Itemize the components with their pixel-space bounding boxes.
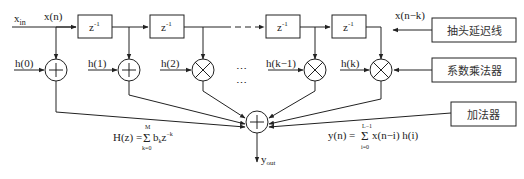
input-label: xin (14, 12, 26, 27)
coef-label-k: h(k) (341, 57, 360, 70)
formula-output: y(n) = L−1 Σ i=0 x(n−i) h(i) (328, 123, 419, 150)
svg-text:k=0: k=0 (142, 145, 151, 151)
ellipsis-2: ⋯ (236, 77, 247, 89)
svg-text:x(n−i) h(i): x(n−i) h(i) (372, 129, 419, 142)
output-label: yout (261, 153, 276, 167)
svg-text:Σ: Σ (361, 128, 369, 143)
svg-text:y(n) =: y(n) = (328, 129, 355, 142)
legend-tap-delay-line: 抽头延迟线 (447, 24, 502, 38)
fir-filter-diagram: xin x(n) x(n−k) z-1 z-1 z-1 z-1 h(0) h(1… (0, 0, 524, 179)
xn-label: x(n) (44, 10, 63, 23)
svg-text:H(z) =: H(z) = (113, 131, 142, 144)
svg-text:z-1: z-1 (343, 20, 354, 33)
coef-label-1: h(1) (88, 57, 107, 70)
svg-text:z-1: z-1 (161, 20, 172, 33)
ellipsis-1: ⋯ (236, 63, 247, 75)
legend-adder: 加法器 (467, 108, 500, 122)
svg-text:z-1: z-1 (277, 20, 288, 33)
coef-label-0: h(0) (15, 57, 34, 70)
svg-text:i=0: i=0 (361, 144, 369, 150)
formula-transfer-function: H(z) = M Σ k=0 bkz−k (113, 124, 173, 151)
svg-text:z-1: z-1 (89, 20, 100, 33)
xnk-label: x(n−k) (395, 9, 425, 22)
svg-text:bkz−k: bkz−k (153, 131, 173, 144)
svg-text:Σ: Σ (143, 130, 151, 145)
legend-coeff-multiplier: 系数乘法器 (447, 64, 502, 78)
coef-label-k-1: h(k−1) (266, 57, 296, 70)
coef-label-2: h(2) (161, 57, 180, 70)
